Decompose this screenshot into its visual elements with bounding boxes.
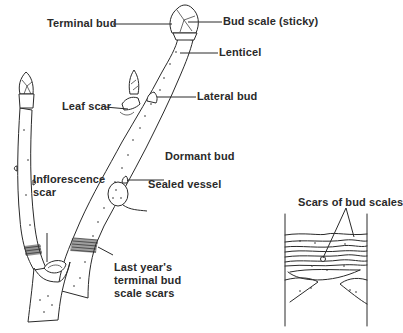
label-leaf-scar: Leaf scar bbox=[62, 100, 111, 113]
label-scars-of-bud-scales: Scars of bud scales bbox=[298, 196, 403, 209]
label-bud-scale: Bud scale (sticky) bbox=[223, 15, 318, 28]
label-dormant-bud: Dormant bud bbox=[165, 150, 235, 163]
label-terminal-bud: Terminal bud bbox=[47, 17, 116, 30]
label-inflorescence-scar: Inflorescence scar bbox=[33, 173, 105, 199]
detail-inset bbox=[285, 208, 367, 326]
label-lenticel: Lenticel bbox=[219, 46, 261, 59]
label-lateral-bud: Lateral bud bbox=[197, 90, 257, 103]
label-sealed-vessel: Sealed vessel bbox=[148, 178, 221, 191]
left-shoot bbox=[14, 72, 46, 270]
label-last-years-scale-scars: Last year's terminal bud scale scars bbox=[114, 261, 181, 300]
